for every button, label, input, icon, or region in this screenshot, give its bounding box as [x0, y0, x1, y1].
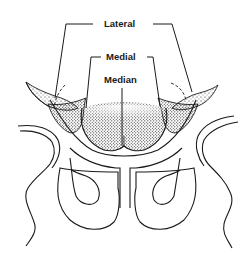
diagram-drawing — [0, 0, 252, 255]
leader-lateral-right — [153, 24, 192, 92]
median-lobe — [81, 102, 167, 151]
label-lateral: Lateral — [104, 19, 135, 29]
label-medial: Medial — [106, 52, 136, 62]
leader-medial-left — [86, 57, 101, 108]
dashed-contour-right — [171, 83, 186, 100]
leader-lateral-left — [55, 24, 93, 98]
anatomical-diagram: Lateral Medial Median — [0, 0, 252, 255]
urethra-walls — [70, 148, 182, 208]
label-median: Median — [104, 75, 137, 85]
